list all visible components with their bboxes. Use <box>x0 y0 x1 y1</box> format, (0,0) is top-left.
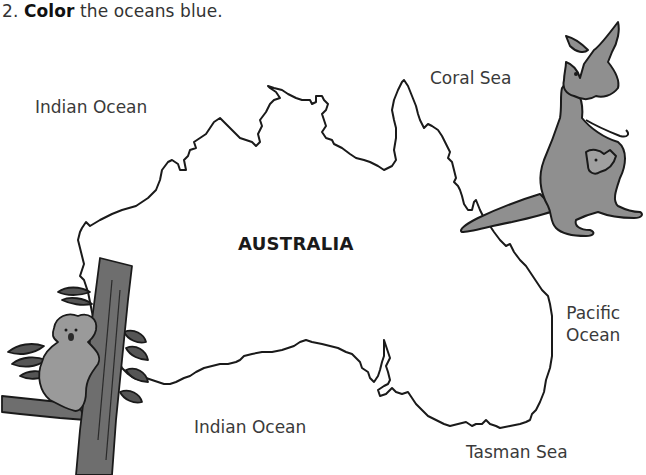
label-tasman-sea: Tasman Sea <box>466 442 568 462</box>
label-pacific-line1: Pacific <box>566 302 620 324</box>
label-pacific-ocean: Pacific Ocean <box>566 302 620 346</box>
map-title: AUSTRALIA <box>238 233 354 254</box>
label-coral-sea: Coral Sea <box>430 68 511 88</box>
label-pacific-line2: Ocean <box>566 324 620 346</box>
australia-outline[interactable] <box>78 80 552 428</box>
label-indian-ocean-bottom: Indian Ocean <box>194 417 306 437</box>
label-indian-ocean-top: Indian Ocean <box>35 97 147 117</box>
kangaroo-illustration <box>461 22 642 236</box>
